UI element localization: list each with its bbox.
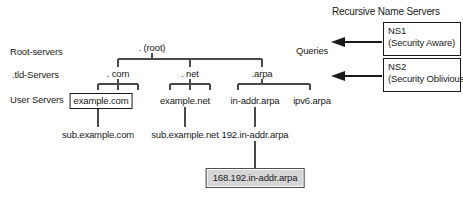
name-server-box-ns2: NS2 (Security Oblivious) — [383, 58, 461, 92]
tree-node-ipv6-arpa: ipv6.arpa — [293, 95, 331, 106]
tree-node-192-in-addr-arpa: 192.in-addr.arpa — [222, 129, 289, 140]
tree-node-net: . net — [181, 68, 199, 79]
tree-node-168-192-in-addr-arpa: 168.192.in-addr.arpa — [206, 168, 305, 188]
tree-node-root: . (root) — [139, 42, 166, 53]
tree-node-sub-example-com: sub.example.com — [62, 129, 134, 140]
dns-hierarchy-diagram: Recursive Name Servers Queries Root-serv… — [0, 0, 463, 201]
queries-label: Queries — [296, 45, 328, 56]
name-server-box-ns1: NS1 (Security Aware) — [383, 22, 461, 56]
row-label-user-servers: User Servers — [10, 94, 64, 105]
tree-node-example-net: example.net — [160, 95, 210, 106]
tree-node-arpa: .arpa — [252, 68, 273, 79]
recursive-name-servers-title: Recursive Name Servers — [332, 6, 440, 17]
tree-node-example-com: example.com — [70, 93, 133, 109]
name-server-ns1-note: (Security Aware) — [388, 37, 457, 49]
tree-node-com: . com — [107, 68, 129, 79]
tree-node-sub-example-net: sub.example.net — [151, 129, 218, 140]
tree-node-in-addr-arpa: in-addr.arpa — [231, 95, 280, 106]
row-label-root-servers: Root-servers — [10, 46, 63, 57]
name-server-ns1-name: NS1 — [388, 25, 457, 37]
row-label-tld-servers: .tld-Servers — [12, 69, 59, 80]
name-server-ns2-note: (Security Oblivious) — [388, 73, 457, 85]
name-server-ns2-name: NS2 — [388, 61, 457, 73]
